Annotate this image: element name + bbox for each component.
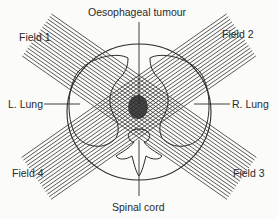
hatch-line: [24, 53, 229, 196]
hatch-line: [29, 45, 234, 188]
field-2-label: Field 2: [222, 28, 254, 40]
hatch-line: [44, 24, 249, 167]
field-4-label: Field 4: [12, 167, 44, 179]
spinal-cord-label: Spinal cord: [112, 201, 165, 213]
field-1-label: Field 1: [19, 31, 51, 43]
hatch-line: [51, 56, 256, 199]
hatch-line: [46, 48, 251, 191]
field-3-label: Field 3: [233, 167, 265, 179]
hatch-line: [44, 45, 249, 188]
left-lung-label: L. Lung: [8, 98, 43, 110]
hatch-line: [28, 48, 233, 191]
right-lung-label: R. Lung: [232, 98, 269, 110]
cross-section-diagram: Oesophageal tumour Field 1 Field 2 Field…: [0, 0, 278, 219]
hatch-line: [29, 24, 234, 167]
hatch-line: [49, 53, 254, 196]
tumour-mass: [128, 95, 148, 119]
diagram-canvas: Oesophageal tumour Field 1 Field 2 Field…: [0, 0, 278, 219]
tumour-label: Oesophageal tumour: [88, 6, 187, 18]
hatch-line: [22, 14, 227, 157]
hatch-line: [24, 17, 229, 160]
hatch-line: [22, 56, 227, 199]
hatch-line: [46, 22, 251, 165]
hatch-line: [27, 22, 232, 165]
